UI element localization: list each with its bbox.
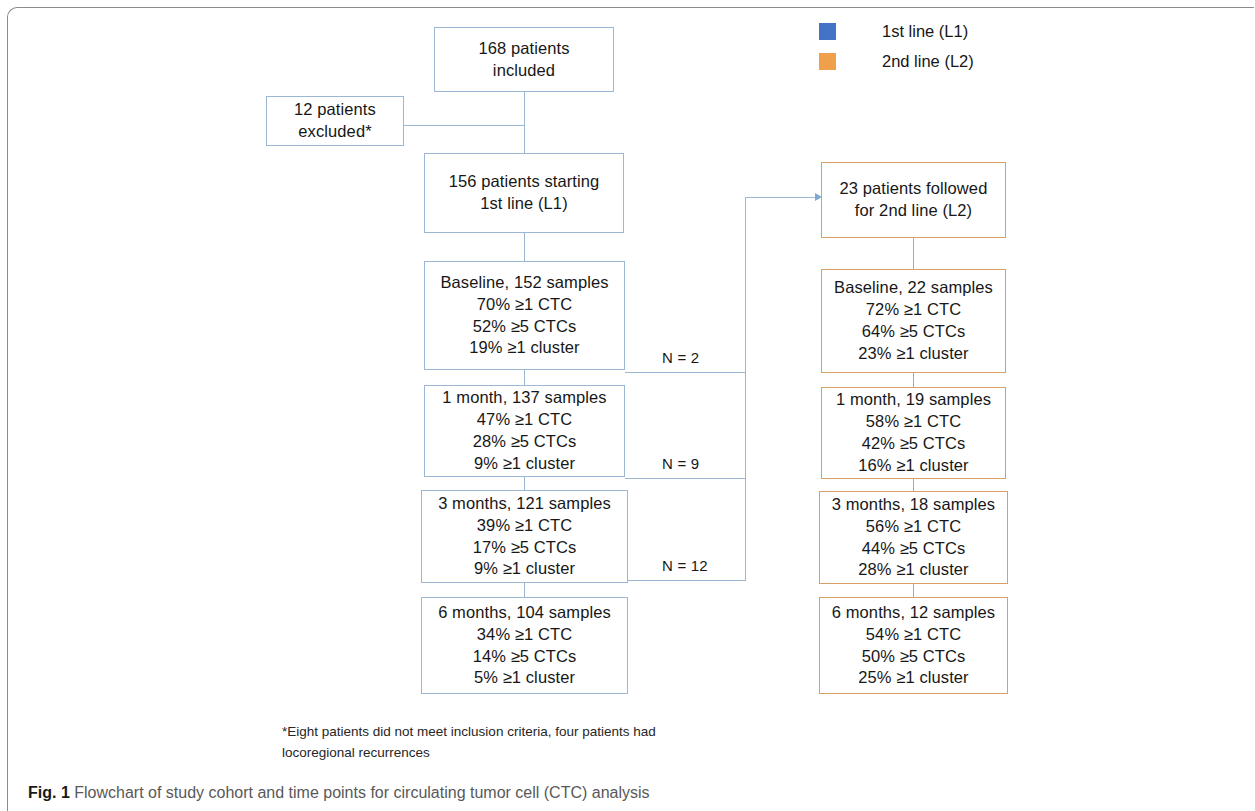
node-line: 168 patients: [478, 38, 569, 60]
connector-l2m1-to-m3: [913, 479, 914, 491]
connector-l2m3-to-m6: [913, 584, 914, 597]
connector-junction-to-l1start: [524, 125, 525, 153]
node-line: 39% ≥1 CTC: [477, 515, 572, 537]
connector-branch-n12: [625, 580, 746, 581]
square-swatch-icon: [819, 53, 836, 70]
node-line: Baseline, 152 samples: [440, 272, 608, 294]
node-line: 56% ≥1 CTC: [866, 516, 961, 538]
node-line: 5% ≥1 cluster: [474, 667, 575, 689]
node-patients-excluded: 12 patients excluded*: [266, 96, 404, 146]
node-line: 23 patients followed: [840, 178, 988, 200]
flowchart-canvas: 168 patients included 12 patients exclud…: [0, 0, 1255, 770]
node-line: 58% ≥1 CTC: [866, 411, 961, 433]
node-l2-baseline: Baseline, 22 samples 72% ≥1 CTC 64% ≥5 C…: [821, 269, 1006, 373]
node-line: 70% ≥1 CTC: [477, 294, 572, 316]
node-line: 9% ≥1 cluster: [474, 453, 575, 475]
node-line: 1 month, 137 samples: [442, 387, 606, 409]
connector-l1m3-to-m6: [524, 583, 525, 597]
node-line: 9% ≥1 cluster: [474, 558, 575, 580]
node-line: 72% ≥1 CTC: [866, 299, 961, 321]
connector-included-down: [524, 92, 525, 125]
legend: 1st line (L1) 2nd line (L2): [819, 16, 1059, 76]
node-line: 25% ≥1 cluster: [858, 667, 968, 689]
node-line: for 2nd line (L2): [855, 200, 972, 222]
node-line: 12 patients: [294, 99, 376, 121]
node-l1-month6: 6 months, 104 samples 34% ≥1 CTC 14% ≥5 …: [421, 597, 628, 694]
node-line: Baseline, 22 samples: [834, 277, 993, 299]
node-line: 16% ≥1 cluster: [858, 455, 968, 477]
node-line: 23% ≥1 cluster: [858, 343, 968, 365]
connector-l2baseline-to-m1: [913, 373, 914, 387]
node-line: 14% ≥5 CTCs: [473, 646, 577, 668]
node-l2-month3: 3 months, 18 samples 56% ≥1 CTC 44% ≥5 C…: [819, 491, 1008, 584]
connector-l1m1-to-m3: [524, 477, 525, 490]
branch-label-n12: N = 12: [662, 557, 708, 574]
node-line: 17% ≥5 CTCs: [473, 537, 577, 559]
node-line: 6 months, 104 samples: [438, 602, 611, 624]
legend-item-l2: 2nd line (L2): [819, 46, 1059, 76]
figure-number: Fig. 1: [28, 784, 70, 801]
branch-label-n2: N = 2: [662, 349, 699, 366]
node-line: 42% ≥5 CTCs: [862, 433, 966, 455]
node-line: 6 months, 12 samples: [832, 602, 995, 624]
legend-item-l1: 1st line (L1): [819, 16, 1059, 46]
node-line: 50% ≥5 CTCs: [862, 646, 966, 668]
node-line: 52% ≥5 CTCs: [473, 316, 577, 338]
node-l1-baseline: Baseline, 152 samples 70% ≥1 CTC 52% ≥5 …: [424, 261, 625, 370]
footnote-line-2: locoregional recurrences: [282, 743, 782, 764]
connector-collector-to-l2start: [745, 197, 817, 198]
node-l2-month6: 6 months, 12 samples 54% ≥1 CTC 50% ≥5 C…: [819, 597, 1008, 694]
node-line: 1 month, 19 samples: [836, 389, 991, 411]
node-line: 1st line (L1): [480, 193, 568, 215]
footnote: *Eight patients did not meet inclusion c…: [282, 722, 782, 764]
node-line: 28% ≥5 CTCs: [473, 431, 577, 453]
node-line: 28% ≥1 cluster: [858, 559, 968, 581]
node-line: excluded*: [298, 121, 371, 143]
connector-branch-n2: [625, 372, 746, 373]
node-line: included: [493, 60, 555, 82]
node-line: 19% ≥1 cluster: [469, 337, 579, 359]
node-l1-month1: 1 month, 137 samples 47% ≥1 CTC 28% ≥5 C…: [424, 385, 625, 477]
node-l1-start: 156 patients starting 1st line (L1): [424, 153, 624, 233]
connector-l1baseline-to-m1: [524, 370, 525, 385]
square-swatch-icon: [819, 23, 836, 40]
connector-l2start-to-baseline: [913, 238, 914, 269]
node-line: 3 months, 121 samples: [438, 493, 611, 515]
connector-l1start-to-baseline: [524, 233, 525, 261]
node-line: 54% ≥1 CTC: [866, 624, 961, 646]
node-line: 47% ≥1 CTC: [477, 409, 572, 431]
figure-caption: Fig. 1 Flowchart of study cohort and tim…: [28, 784, 1228, 802]
node-line: 44% ≥5 CTCs: [862, 538, 966, 560]
node-line: 156 patients starting: [449, 171, 600, 193]
node-l2-month1: 1 month, 19 samples 58% ≥1 CTC 42% ≥5 CT…: [821, 387, 1006, 479]
connector-excluded-branch: [404, 125, 525, 126]
node-patients-included: 168 patients included: [434, 27, 614, 92]
connector-l2-collector-spine: [745, 197, 746, 581]
connector-branch-n9: [625, 478, 746, 479]
node-l1-month3: 3 months, 121 samples 39% ≥1 CTC 17% ≥5 …: [421, 490, 628, 583]
node-line: 3 months, 18 samples: [832, 494, 995, 516]
footnote-line-1: *Eight patients did not meet inclusion c…: [282, 722, 782, 743]
legend-item-label: 2nd line (L2): [882, 52, 974, 71]
figure-caption-text: Flowchart of study cohort and time point…: [74, 784, 649, 801]
node-l2-start: 23 patients followed for 2nd line (L2): [821, 162, 1006, 238]
legend-item-label: 1st line (L1): [882, 22, 968, 41]
node-line: 34% ≥1 CTC: [477, 624, 572, 646]
branch-label-n9: N = 9: [662, 455, 699, 472]
node-line: 64% ≥5 CTCs: [862, 321, 966, 343]
